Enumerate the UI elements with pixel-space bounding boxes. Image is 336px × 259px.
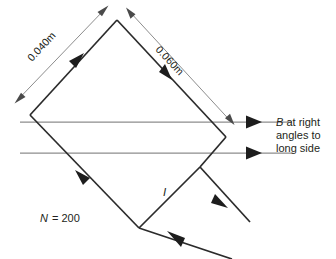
label-short-side: 0.040m xyxy=(25,29,58,63)
coil-field-diagram: 0.040m 0.060m N= 200 I B at right angles… xyxy=(0,0,336,259)
label-turns-value: = 200 xyxy=(52,212,80,224)
figure-container: 0.040m 0.060m N= 200 I B at right angles… xyxy=(0,0,336,259)
coil-side-lower-right xyxy=(139,167,200,228)
label-turns-symbol: N xyxy=(40,212,48,224)
field-note-line1-rest: at right xyxy=(283,116,320,128)
field-arrowhead-upper xyxy=(246,116,262,129)
label-turns: N= 200 xyxy=(40,212,80,224)
field-note-line-1: B at right xyxy=(276,116,320,128)
lead-wire-incoming xyxy=(139,228,232,259)
dimension-arrowhead-long-lower xyxy=(225,114,235,125)
field-arrowhead-lower xyxy=(246,147,262,160)
field-note-line-2: angles to xyxy=(276,129,321,141)
current-arrowheads-group xyxy=(69,53,172,185)
label-current: I xyxy=(163,186,167,198)
lead-wire-outgoing xyxy=(200,167,250,222)
field-lines-group xyxy=(20,116,292,160)
field-note-symbol: B xyxy=(276,116,283,128)
coil-notch-segment xyxy=(200,137,226,167)
field-note-group: B at right angles to long side xyxy=(276,116,321,154)
current-arrowhead-lower-left xyxy=(75,170,90,185)
current-arrowhead-upper-left xyxy=(69,53,84,68)
coil-side-upper-right xyxy=(117,20,226,137)
lead-wires-group xyxy=(139,167,250,259)
field-note-line-3: long side xyxy=(276,142,320,154)
coil-outline-group xyxy=(30,20,226,228)
label-long-side: 0.060m xyxy=(154,43,187,77)
dimension-arrowhead-short-lower xyxy=(15,93,26,104)
